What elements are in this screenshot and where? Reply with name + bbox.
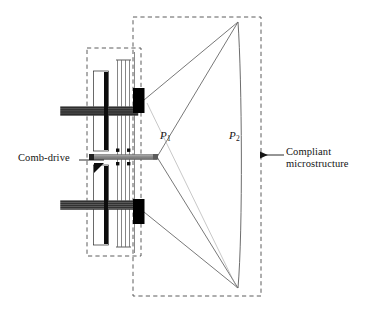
shuttle-node-lower-2	[127, 162, 130, 165]
shuttle-bar	[92, 155, 157, 160]
lower-anchor-block	[133, 199, 145, 224]
figure-root: Comb-drive Compliantmicrostructure P1 P2	[0, 0, 366, 313]
point-p1-letter: P	[160, 129, 167, 141]
compliant-label-line-1: Compliant	[286, 146, 331, 157]
node-p1-marker	[153, 154, 158, 160]
compliant-microstructure-label: Compliantmicrostructure	[286, 146, 362, 171]
upper-comb-stator-bar	[104, 72, 108, 150]
point-p2-label: P2	[229, 129, 240, 143]
point-p2-letter: P	[229, 129, 236, 141]
shuttle-left-end	[89, 154, 94, 160]
point-p2-subscript: 2	[236, 134, 240, 143]
lower-comb-teeth	[60, 200, 138, 210]
upper-anchor-block	[133, 88, 145, 113]
compliant-label-line-2: microstructure	[286, 158, 362, 170]
shuttle-node-upper-1	[116, 149, 119, 152]
upper-comb-teeth	[60, 106, 138, 116]
shuttle-node-lower-1	[116, 162, 119, 165]
point-p1-subscript: 1	[167, 134, 171, 143]
lower-comb-stator-bar	[104, 166, 108, 244]
comb-drive-label: Comb-drive	[18, 152, 70, 164]
point-p1-label: P1	[160, 129, 171, 143]
shuttle-node-upper-2	[127, 149, 130, 152]
